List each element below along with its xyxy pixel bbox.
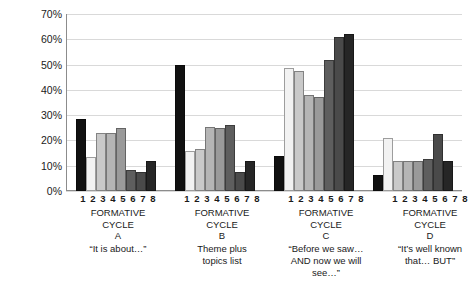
group-description-A: “It is about…” bbox=[66, 243, 170, 255]
bar-B-3[interactable] bbox=[195, 149, 205, 191]
x-tick-5: 5 bbox=[222, 193, 232, 204]
group-description-line: Theme plus bbox=[170, 243, 274, 255]
group-heading-D: FORMATIVECYCLED bbox=[378, 207, 473, 242]
x-tick-4: 4 bbox=[316, 193, 326, 204]
group-description-line: “Before we saw… bbox=[274, 243, 378, 255]
y-axis-tick-60: 60% bbox=[26, 33, 62, 45]
bar-group-D bbox=[363, 14, 462, 191]
group-description-B: Theme plustopics list bbox=[170, 243, 274, 267]
bar-C-4[interactable] bbox=[304, 95, 314, 191]
x-tick-8: 8 bbox=[252, 193, 262, 204]
group-heading-A: FORMATIVECYCLEA bbox=[66, 207, 170, 242]
group-description-C: “Before we saw…AND now we willsee…” bbox=[274, 243, 378, 279]
tick-number-row: 12345678 bbox=[170, 193, 274, 204]
bar-B-8[interactable] bbox=[245, 161, 255, 191]
bar-A-3[interactable] bbox=[96, 133, 106, 191]
y-axis-tick-labels: 0%10%20%30%40%50%60%70% bbox=[26, 14, 62, 191]
bar-B-5[interactable] bbox=[215, 128, 225, 191]
x-tick-8: 8 bbox=[460, 193, 470, 204]
x-tick-3: 3 bbox=[98, 193, 108, 204]
x-tick-2: 2 bbox=[400, 193, 410, 204]
bar-B-2[interactable] bbox=[185, 151, 195, 191]
group-description-line: that… BUT” bbox=[378, 255, 473, 267]
bar-D-7[interactable] bbox=[433, 134, 443, 191]
x-tick-6: 6 bbox=[336, 193, 346, 204]
bar-C-2[interactable] bbox=[284, 68, 294, 191]
bar-D-8[interactable] bbox=[443, 161, 453, 191]
x-tick-6: 6 bbox=[440, 193, 450, 204]
bar-D-1[interactable] bbox=[373, 175, 383, 191]
x-tick-1: 1 bbox=[78, 193, 88, 204]
x-tick-6: 6 bbox=[128, 193, 138, 204]
group-heading-line: FORMATIVE bbox=[378, 207, 473, 219]
bar-C-3[interactable] bbox=[294, 71, 304, 191]
x-group-label-A: 12345678FORMATIVECYCLEA“It is about…” bbox=[66, 193, 170, 298]
x-tick-8: 8 bbox=[148, 193, 158, 204]
bar-B-1[interactable] bbox=[175, 65, 185, 191]
group-heading-line: CYCLE bbox=[170, 219, 274, 231]
tick-number-row: 12345678 bbox=[378, 193, 473, 204]
x-tick-8: 8 bbox=[356, 193, 366, 204]
group-heading-line: D bbox=[378, 230, 473, 242]
group-description-line: see…” bbox=[274, 267, 378, 279]
bar-A-5[interactable] bbox=[116, 128, 126, 191]
group-heading-line: B bbox=[170, 230, 274, 242]
bar-A-1[interactable] bbox=[76, 119, 86, 191]
bar-D-3[interactable] bbox=[393, 161, 403, 191]
bar-D-2[interactable] bbox=[383, 138, 393, 191]
x-tick-4: 4 bbox=[420, 193, 430, 204]
group-heading-line: A bbox=[66, 230, 170, 242]
tick-number-row: 12345678 bbox=[274, 193, 378, 204]
bar-A-7[interactable] bbox=[136, 172, 146, 191]
bar-B-4[interactable] bbox=[205, 127, 215, 191]
group-heading-C: FORMATIVECYCLEC bbox=[274, 207, 378, 242]
x-group-label-D: 12345678FORMATIVECYCLED“It’s well knownt… bbox=[378, 193, 473, 298]
group-description-line: “It is about…” bbox=[66, 243, 170, 255]
x-tick-1: 1 bbox=[182, 193, 192, 204]
bar-A-2[interactable] bbox=[86, 157, 96, 191]
y-axis-tick-70: 70% bbox=[26, 8, 62, 20]
group-heading-B: FORMATIVECYCLEB bbox=[170, 207, 274, 242]
bar-C-8[interactable] bbox=[344, 34, 354, 191]
y-axis-tick-30: 30% bbox=[26, 109, 62, 121]
gridline bbox=[66, 191, 462, 192]
group-heading-line: CYCLE bbox=[274, 219, 378, 231]
bar-group-C bbox=[264, 14, 363, 191]
bar-B-6[interactable] bbox=[225, 125, 235, 191]
bar-chart: Percentage of teachers 0%10%20%30%40%50%… bbox=[0, 0, 473, 300]
bar-D-4[interactable] bbox=[403, 161, 413, 191]
group-description-line: “It’s well known bbox=[378, 243, 473, 255]
bar-C-5[interactable] bbox=[314, 97, 324, 191]
tick-number-row: 12345678 bbox=[66, 193, 170, 204]
y-axis-tick-0: 0% bbox=[26, 185, 62, 197]
x-tick-3: 3 bbox=[202, 193, 212, 204]
bar-C-7[interactable] bbox=[334, 37, 344, 191]
bar-D-6[interactable] bbox=[423, 159, 433, 191]
x-tick-7: 7 bbox=[450, 193, 460, 204]
plot-area bbox=[66, 14, 462, 191]
group-heading-line: FORMATIVE bbox=[170, 207, 274, 219]
y-axis-tick-10: 10% bbox=[26, 160, 62, 172]
bar-A-6[interactable] bbox=[126, 170, 136, 191]
group-description-line: AND now we will bbox=[274, 255, 378, 267]
x-group-label-B: 12345678FORMATIVECYCLEBTheme plustopics … bbox=[170, 193, 274, 298]
bar-B-7[interactable] bbox=[235, 172, 245, 191]
group-heading-line: CYCLE bbox=[66, 219, 170, 231]
x-tick-2: 2 bbox=[192, 193, 202, 204]
x-tick-1: 1 bbox=[286, 193, 296, 204]
bar-C-1[interactable] bbox=[274, 156, 284, 191]
bar-A-8[interactable] bbox=[146, 161, 156, 191]
bar-group-B bbox=[165, 14, 264, 191]
bar-C-6[interactable] bbox=[324, 60, 334, 191]
x-tick-3: 3 bbox=[306, 193, 316, 204]
bar-D-5[interactable] bbox=[413, 161, 423, 191]
x-tick-6: 6 bbox=[232, 193, 242, 204]
x-axis-labels: 12345678FORMATIVECYCLEA“It is about…”123… bbox=[66, 193, 462, 298]
x-tick-3: 3 bbox=[410, 193, 420, 204]
x-tick-2: 2 bbox=[88, 193, 98, 204]
x-tick-7: 7 bbox=[346, 193, 356, 204]
x-tick-7: 7 bbox=[138, 193, 148, 204]
bar-A-4[interactable] bbox=[106, 133, 116, 191]
group-description-D: “It’s well knownthat… BUT” bbox=[378, 243, 473, 267]
x-tick-4: 4 bbox=[212, 193, 222, 204]
